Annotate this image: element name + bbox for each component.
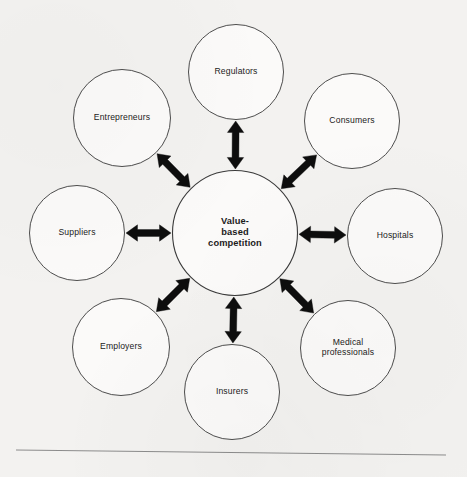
node-label-line: competition (208, 239, 262, 249)
node-label-line: Insurers (216, 386, 248, 396)
value-based-competition-diagram: RegulatorsConsumersHospitalsMedicalprofe… (0, 0, 467, 477)
node-label-suppliers: Suppliers (58, 227, 95, 237)
connector-arrow-regulators (227, 121, 244, 169)
node-label-regulators: Regulators (214, 66, 257, 76)
connector-arrow-consumers (281, 155, 316, 189)
footer-divider (16, 450, 446, 455)
node-regulators[interactable]: Regulators (189, 25, 284, 120)
node-label-consumers: Consumers (329, 115, 374, 125)
node-label-hospitals: Hospitals (377, 230, 414, 240)
node-label-line: Suppliers (58, 227, 95, 237)
node-medical-professionals[interactable]: Medicalprofessionals (301, 301, 396, 396)
node-label-insurers: Insurers (216, 386, 248, 396)
node-employers[interactable]: Employers (73, 299, 170, 396)
node-label-line: Consumers (329, 115, 374, 125)
node-label-line: Regulators (214, 66, 257, 76)
node-label-entrepreneurs: Entrepreneurs (94, 112, 150, 122)
connector-arrow-hospitals (299, 226, 346, 243)
node-suppliers[interactable]: Suppliers (30, 186, 125, 281)
connector-arrow-medical-professionals (280, 279, 314, 313)
connector-arrow-employers (156, 278, 189, 311)
node-label-line: professionals (322, 348, 375, 358)
node-label-line: based (221, 227, 249, 237)
node-hospitals[interactable]: Hospitals (348, 189, 443, 284)
node-label-line: Value- (221, 216, 249, 226)
node-label-line: Entrepreneurs (94, 112, 150, 122)
connector-arrow-insurers (225, 297, 242, 343)
connector-arrow-suppliers (126, 225, 171, 241)
connector-arrow-entrepreneurs (157, 154, 190, 188)
node-label-employers: Employers (100, 341, 142, 351)
node-value-based-competition[interactable]: Value-basedcompetition (173, 171, 298, 296)
nodes-layer: RegulatorsConsumersHospitalsMedicalprofe… (30, 25, 443, 440)
node-label-line: Hospitals (377, 230, 414, 240)
node-label-line: Employers (100, 341, 142, 351)
node-insurers[interactable]: Insurers (185, 345, 280, 440)
node-label-line: Medical (333, 337, 364, 347)
node-consumers[interactable]: Consumers (305, 74, 400, 169)
node-entrepreneurs[interactable]: Entrepreneurs (74, 70, 171, 167)
figure-page: RegulatorsConsumersHospitalsMedicalprofe… (0, 0, 467, 477)
